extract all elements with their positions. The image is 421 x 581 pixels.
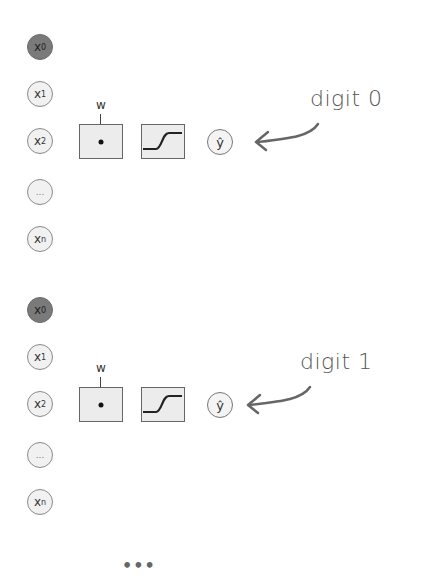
- node-var: x: [34, 232, 41, 246]
- weight-label: w: [96, 361, 106, 375]
- output-node-yhat: ŷ: [207, 392, 233, 418]
- sigmoid-curve-icon: [142, 388, 183, 420]
- node-sub: 0: [41, 43, 46, 52]
- arrow-icon: [252, 118, 322, 158]
- annotation-digit-1: digit 1: [300, 349, 373, 374]
- input-node-ellipsis: ...: [27, 179, 53, 205]
- dot-product-box: [79, 387, 123, 422]
- node-sub: 2: [41, 400, 46, 409]
- dot-product-box: [79, 124, 123, 159]
- input-node-x1: x1: [27, 344, 53, 370]
- node-sub: 2: [41, 137, 46, 146]
- perceptron-group-digit-0: x0 x1 x2 ... xn w ŷ digit 0: [0, 0, 421, 260]
- output-label: ŷ: [216, 135, 224, 150]
- weight-connector: [100, 377, 101, 387]
- node-var: x: [34, 350, 41, 364]
- node-sub: n: [41, 235, 46, 244]
- weight-connector: [100, 114, 101, 124]
- dot-product-icon: [99, 139, 104, 144]
- node-sub: n: [41, 498, 46, 507]
- output-label: ŷ: [216, 398, 224, 413]
- node-var: x: [34, 134, 41, 148]
- input-node-xn: xn: [27, 489, 53, 515]
- node-sub: 1: [41, 353, 46, 362]
- node-sub: 1: [41, 90, 46, 99]
- input-node-x1: x1: [27, 81, 53, 107]
- node-sub: 0: [41, 306, 46, 315]
- input-node-x2: x2: [27, 128, 53, 154]
- sigmoid-activation-box: [141, 124, 185, 159]
- weight-label: w: [96, 98, 106, 112]
- node-var: x: [34, 40, 41, 54]
- node-var: x: [34, 87, 41, 101]
- continuation-ellipsis: •••: [122, 556, 156, 575]
- input-node-x0: x0: [27, 34, 53, 60]
- input-node-xn: xn: [27, 226, 53, 252]
- sigmoid-activation-box: [141, 387, 185, 422]
- annotation-digit-0: digit 0: [310, 86, 383, 111]
- node-var: ...: [36, 187, 45, 197]
- output-node-yhat: ŷ: [207, 129, 233, 155]
- node-var: ...: [36, 450, 45, 460]
- node-var: x: [34, 303, 41, 317]
- input-node-x0: x0: [27, 297, 53, 323]
- input-node-ellipsis: ...: [27, 442, 53, 468]
- sigmoid-curve-icon: [142, 125, 183, 157]
- input-node-x2: x2: [27, 391, 53, 417]
- arrow-icon: [244, 381, 314, 421]
- node-var: x: [34, 495, 41, 509]
- node-var: x: [34, 397, 41, 411]
- perceptron-group-digit-1: x0 x1 x2 ... xn w ŷ digit 1: [0, 263, 421, 523]
- dot-product-icon: [99, 402, 104, 407]
